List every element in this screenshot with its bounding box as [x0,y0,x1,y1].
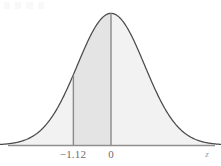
axis-tick-label-zero: 0 [108,149,114,160]
normal-curve-figure: −1.12 0 z [0,0,221,166]
axis-variable-label-z: z [205,150,209,159]
normal-curve-chart [0,0,221,166]
axis-tick-label-neg-1-12: −1.12 [60,149,86,160]
